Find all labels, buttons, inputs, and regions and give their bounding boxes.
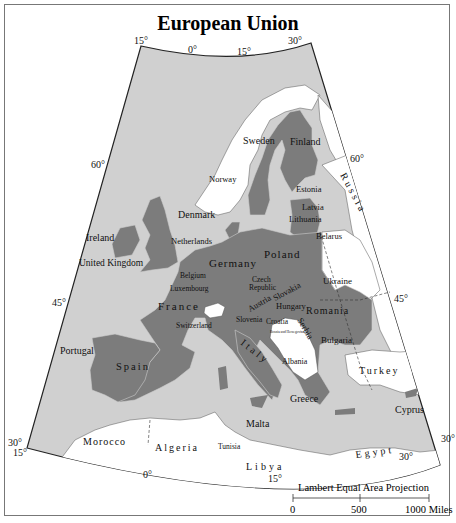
- svg-text:0°: 0°: [188, 44, 197, 55]
- svg-text:60°: 60°: [350, 153, 364, 164]
- scale-tick-0: 0: [290, 504, 295, 515]
- label-poland: Poland: [264, 248, 301, 260]
- label-greece: Greece: [290, 393, 319, 404]
- label-portugal: Portugal: [60, 345, 94, 356]
- label-cyprus: Cyprus: [395, 404, 424, 415]
- svg-text:30°: 30°: [399, 451, 413, 462]
- label-spain: Spain: [116, 361, 150, 372]
- scale-bar-title: Lambert Equal Area Projection: [298, 482, 429, 493]
- label-finland: Finland: [290, 136, 321, 147]
- label-luxembourg: Luxembourg: [170, 284, 209, 293]
- label-netherlands: Netherlands: [171, 236, 212, 246]
- label-romania: Romania: [306, 305, 349, 316]
- label-germany: Germany: [209, 257, 257, 269]
- scale-tick-1000: 1000 Miles: [405, 504, 453, 515]
- svg-text:15°: 15°: [268, 473, 282, 484]
- svg-text:15°: 15°: [13, 447, 27, 458]
- svg-text:15°: 15°: [237, 46, 251, 57]
- label-sweden: Sweden: [243, 135, 275, 146]
- svg-text:30°: 30°: [288, 35, 302, 46]
- label-belgium: Belgium: [180, 271, 206, 280]
- svg-text:0°: 0°: [143, 469, 152, 480]
- svg-text:60°: 60°: [91, 159, 105, 170]
- label-belarus: Belarus: [316, 231, 342, 241]
- label-denmark: Denmark: [178, 209, 215, 220]
- svg-text:15°: 15°: [134, 35, 148, 46]
- scale-tick-500: 500: [351, 504, 367, 515]
- europe-map: 15° 0° 15° 30° 60° 45° 30° 15° 60° 45° 3…: [0, 0, 456, 523]
- label-bulgaria: Bulgaria: [321, 335, 352, 345]
- scale-bar: [293, 494, 429, 502]
- label-bosnia: Bosnia and Herzegovina: [270, 330, 305, 334]
- label-republic: Republic: [249, 283, 277, 292]
- label-croatia: Croatia: [266, 317, 289, 326]
- label-slovenia: Slovenia: [236, 315, 263, 324]
- label-france: France: [158, 300, 200, 312]
- svg-text:30°: 30°: [441, 433, 455, 444]
- label-latvia: Latvia: [302, 202, 324, 212]
- label-tunisia: Tunisia: [218, 442, 241, 451]
- label-ukraine: Ukraine: [323, 276, 352, 286]
- label-estonia: Estonia: [296, 184, 322, 194]
- label-united-kingdom: United Kingdom: [79, 258, 144, 268]
- label-algeria: Algeria: [155, 442, 199, 453]
- label-norway: Norway: [209, 174, 237, 184]
- svg-text:45°: 45°: [394, 293, 408, 304]
- svg-text:45°: 45°: [52, 297, 66, 308]
- label-albania: Albania: [282, 357, 308, 366]
- label-turkey: Turkey: [359, 365, 400, 376]
- label-morocco: Morocco: [83, 436, 126, 447]
- label-lithuania: Lithuania: [289, 214, 322, 224]
- label-hungary: Hungary: [276, 301, 306, 311]
- label-ireland: Ireland: [86, 232, 114, 243]
- label-malta: Malta: [246, 418, 270, 429]
- label-switzerland: Switzerland: [176, 321, 212, 330]
- label-libya: Libya: [246, 461, 284, 472]
